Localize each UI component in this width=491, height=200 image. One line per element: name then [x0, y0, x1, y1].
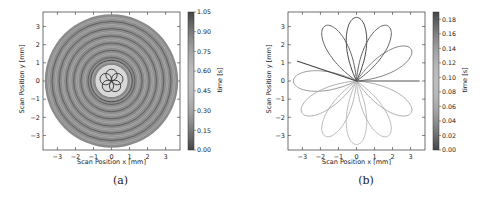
plot-b-colorbar-tick: 0.16	[442, 30, 456, 37]
plot-b-ylabel: Scan Position y [mm]	[265, 39, 273, 119]
plot-b-ytick-label: 3	[281, 23, 285, 31]
plot-b-canvas: −3−2−10123−3−2−101230.000.020.040.060.08…	[245, 0, 491, 200]
plot-a-colorbar-tick: 0.45	[197, 87, 211, 94]
plot-a-ytick-label: −3	[30, 132, 40, 140]
plot-b-colorbar-tick: 0.06	[442, 103, 456, 110]
plot-a-ylabel: Scan Position y [mm]	[18, 39, 26, 119]
plot-b-colorbar-tick: 0.08	[442, 88, 456, 95]
plot-b-colorbar-tick: 0.18	[442, 16, 456, 23]
plot-a-colorbar-tick: 0.60	[197, 67, 211, 74]
plot-a-ytick-label: 3	[36, 23, 40, 31]
plot-b-colorbar-label: time [s]	[461, 60, 469, 100]
plot-a-ytick-label: 2	[36, 41, 40, 49]
plot-b-colorbar-tick: 0.04	[442, 117, 456, 124]
plot-a-colorbar-tick: 0.90	[197, 28, 211, 35]
plot-b-colorbar-tick: 0.12	[442, 59, 456, 66]
plot-a-ytick-label: −2	[30, 114, 40, 122]
plot-a-colorbar-tick: 0.30	[197, 107, 211, 114]
plot-a-ytick-label: 1	[36, 59, 40, 67]
plot-b-xlabel: Scan Position x [mm]	[288, 158, 425, 166]
plot-b-colorbar-tick: 0.10	[442, 74, 456, 81]
plot-b-ytick-label: −1	[275, 95, 285, 103]
panel-b-caption: (b)	[243, 174, 489, 187]
panel-a-caption: (a)	[0, 174, 243, 187]
plot-b-colorbar: 0.000.020.040.060.080.100.120.140.160.18	[433, 12, 456, 153]
plot-b-trajectory	[293, 17, 419, 144]
plot-a-trajectory	[45, 14, 178, 147]
plot-b-colorbar-tick: 0.02	[442, 132, 456, 139]
plot-b-ytick-label: 2	[281, 41, 285, 49]
plot-a-colorbar-tick: 0.15	[197, 127, 211, 134]
plot-a-xlabel: Scan Position x [mm]	[43, 158, 180, 166]
plot-b-ytick-label: −3	[275, 132, 285, 140]
panel-b: −3−2−10123−3−2−101230.000.020.040.060.08…	[245, 0, 490, 200]
panel-a: −3−2−10123−3−2−101230.000.150.300.450.60…	[0, 0, 245, 200]
plot-b-colorbar-tick: 0.14	[442, 45, 456, 52]
plot-a-colorbar-tick: 0.75	[197, 48, 211, 55]
plot-b-ytick-label: −2	[275, 114, 285, 122]
plot-a-ytick-label: 0	[36, 77, 40, 85]
plot-a-colorbar: 0.000.150.300.450.600.750.901.05	[188, 8, 211, 153]
plot-b-ytick-label: 1	[281, 59, 285, 67]
plot-b-colorbar-tick: 0.00	[442, 146, 456, 153]
plot-a-canvas: −3−2−10123−3−2−101230.000.150.300.450.60…	[0, 0, 245, 200]
plot-a-colorbar-tick: 1.05	[197, 8, 211, 15]
plot-a-ytick-label: −1	[30, 95, 40, 103]
plot-b-ytick-label: 0	[281, 77, 285, 85]
plot-b-axes: −3−2−10123−3−2−10123	[275, 12, 425, 161]
plot-a-colorbar-tick: 0.00	[197, 146, 211, 153]
plot-a-colorbar-label: time [s]	[216, 60, 224, 100]
